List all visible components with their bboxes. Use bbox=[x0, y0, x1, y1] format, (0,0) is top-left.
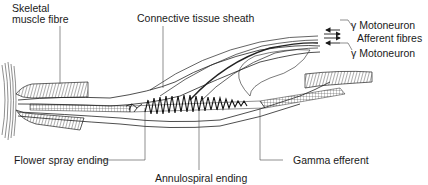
tendon bbox=[2, 62, 16, 140]
muscle-spindle-diagram: Skeletal muscle fibre Connective tissue … bbox=[0, 0, 428, 185]
label-gamma-motoneuron-bottom: γ Motoneuron bbox=[351, 48, 415, 59]
label-annulospiral-ending: Annulospiral ending bbox=[155, 173, 247, 184]
skeletal-muscle-fibre-right bbox=[305, 71, 372, 88]
skeletal-muscle-fibre-upper bbox=[16, 82, 88, 98]
label-connective-tissue-sheath: Connective tissue sheath bbox=[137, 13, 254, 24]
label-flower-spray-ending: Flower spray ending bbox=[14, 155, 109, 166]
label-gamma-motoneuron-top: γ Motoneuron bbox=[351, 20, 415, 31]
label-skeletal-muscle-fibre: Skeletal muscle fibre bbox=[12, 3, 69, 25]
label-afferent-fibres: Afferent fibres bbox=[357, 33, 422, 44]
direction-arrows bbox=[324, 30, 340, 43]
skeletal-muscle-fibre-lower bbox=[16, 110, 84, 130]
label-gamma-efferent: Gamma efferent bbox=[293, 155, 369, 166]
